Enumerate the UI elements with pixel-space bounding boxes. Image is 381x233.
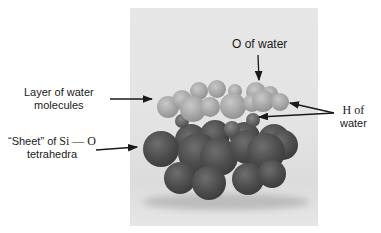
label-layer-line2: molecules xyxy=(24,99,94,112)
label-h-of-water: H of water xyxy=(340,104,367,130)
arrow-o-of-water xyxy=(258,55,259,80)
label-layer-of-water-molecules: Layer of water molecules xyxy=(24,86,94,112)
label-sheet-si-o-tetrahedra: “Sheet” of Si — O tetrahedra xyxy=(8,135,96,161)
arrow-h-of-water-2 xyxy=(259,113,334,117)
label-h-line2: water xyxy=(340,117,367,130)
label-sheet-line2: tetrahedra xyxy=(8,148,96,161)
label-layer-line1: Layer of water xyxy=(24,86,94,99)
label-si-o: Si — O xyxy=(59,134,96,148)
label-o-of-water: O of water xyxy=(232,38,287,51)
arrow-h-of-water-1 xyxy=(290,103,334,113)
arrow-sheet-si-o xyxy=(96,147,137,150)
callout-arrows xyxy=(0,0,381,233)
label-h-line1: H of xyxy=(340,104,367,117)
label-sheet-line1: “Sheet” of xyxy=(8,135,59,147)
